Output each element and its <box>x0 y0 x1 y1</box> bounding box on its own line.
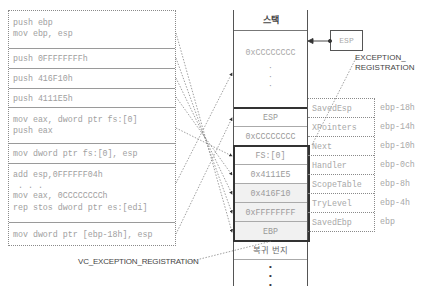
field-label: SavedEbp <box>308 213 374 232</box>
stack-row-trylevel: 0xFFFFFFFF <box>234 203 307 222</box>
offset-label: ebp-14h <box>380 117 415 136</box>
code-row-push-next: mov eax, dword ptr fs:[0] push eax <box>9 108 175 144</box>
stack-value: 복귀 번지 <box>253 245 288 255</box>
field-label: XPointers <box>308 118 374 137</box>
code-line: mov dword ptr fs:[0], esp <box>13 148 175 159</box>
offset-label: ebp <box>380 212 395 231</box>
code-line: mov dword ptr [ebp-18h], esp <box>13 229 175 240</box>
stack-row-handler: 0x4111E5 <box>234 165 307 184</box>
stack-row-xpointers: 0xCCCCCCCC <box>234 127 307 146</box>
stack-value: 0xFFFFFFFF <box>246 208 296 217</box>
field-labels: SavedEsp XPointers Next Handler ScopeTab… <box>308 98 375 232</box>
code-line: push 0FFFFFFFFh <box>13 53 175 64</box>
code-row-set-fs: mov dword ptr fs:[0], esp <box>9 144 175 164</box>
stack-value: 0x4111E5 <box>251 170 291 179</box>
offset-label: ebp-10h <box>380 136 415 155</box>
offset-label: ebp-18h <box>380 98 415 117</box>
label-line: EXCEPTION_ <box>355 53 414 63</box>
stack-row-return-address: 복귀 번지 <box>234 241 307 260</box>
ellipsis-dots: ••• <box>234 262 307 289</box>
field-label: ScopeTable <box>308 175 374 194</box>
code-row-push-handler: push 4111E5h <box>9 89 175 108</box>
code-line: push ebp <box>13 17 175 28</box>
field-label: SavedEsp <box>308 99 374 118</box>
label-line: REGISTRATION <box>355 63 414 73</box>
stack-row-saved-ebp: EBP <box>234 222 307 241</box>
offset-label: ebp-4h <box>380 193 410 212</box>
stack-row-saved-esp: ESP <box>234 108 307 127</box>
code-row-save-esp: mov dword ptr [ebp-18h], esp <box>9 223 175 247</box>
code-row-prologue: push ebp mov ebp, esp <box>9 11 175 49</box>
stack-value: EBP <box>263 227 278 236</box>
code-line: mov ebp, esp <box>13 28 175 39</box>
offset-label: ebp-8h <box>380 174 410 193</box>
code-line: push eax <box>13 125 175 136</box>
vc-exception-registration-label: VC_EXCEPTION_REGISTRATION <box>78 257 199 266</box>
code-line: push 416F10h <box>13 73 175 84</box>
stack-value: 0xCCCCCCCC <box>246 132 296 141</box>
exception-registration-label: EXCEPTION_ REGISTRATION <box>355 53 414 73</box>
code-line: push 4111E5h <box>13 93 175 104</box>
code-line: mov eax, 0CCCCCCCCh <box>13 190 175 202</box>
field-label: Next <box>308 137 374 156</box>
code-row-push-scopetable: push 416F10h <box>9 69 175 89</box>
field-label: Handler <box>308 156 374 175</box>
esp-pointer-box: ESP <box>330 30 363 51</box>
code-line: add esp,0FFFFFF04h <box>13 169 175 181</box>
code-line: rep stos dword ptr es:[edi] <box>13 202 175 214</box>
stack-row-next: FS:[0] <box>234 146 307 165</box>
stack-row-scopetable: 0x416F10 <box>234 184 307 203</box>
stack-header: 스택 <box>234 10 307 31</box>
stack-fill-value: 0xCCCCCCCC <box>234 48 307 57</box>
code-row-alloc-locals: add esp,0FFFFFF04h . . . mov eax, 0CCCCC… <box>9 164 175 223</box>
field-label: TryLevel <box>308 194 374 213</box>
assembly-code-block: push ebp mov ebp, esp push 0FFFFFFFFh pu… <box>8 10 176 246</box>
code-row-push-trylevel: push 0FFFFFFFFh <box>9 49 175 69</box>
stack-fill-area: 0xCCCCCCCC ··· <box>234 31 307 108</box>
stack-value: 0x416F10 <box>251 189 291 198</box>
offset-label: ebp-0ch <box>380 155 415 174</box>
ellipsis-dots: ··· <box>234 63 307 90</box>
code-line: mov eax, dword ptr fs:[0] <box>13 114 175 125</box>
stack-column: 스택 0xCCCCCCCC ··· ESP 0xCCCCCCCC FS:[0] … <box>233 10 308 286</box>
stack-value: ESP <box>263 113 278 122</box>
code-line: . . . <box>13 181 175 190</box>
stack-value: FS:[0] <box>256 151 286 160</box>
